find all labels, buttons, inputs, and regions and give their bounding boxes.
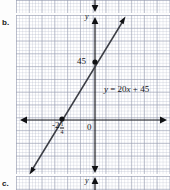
line-lower-left-arrow-icon	[30, 167, 36, 175]
function-line	[32, 21, 123, 170]
down-arrow-icon	[92, 5, 99, 12]
equation-intercept: 45	[140, 84, 149, 94]
y-axis-label-next: y	[85, 177, 89, 185]
x-intercept-whole: 2	[55, 121, 60, 130]
fraction-denominator: 4	[60, 129, 64, 135]
fraction-numerator: 1	[60, 121, 64, 127]
x-intercept-fraction: 1 4	[60, 121, 64, 135]
next-graph-fragment	[16, 176, 170, 190]
origin-label: 0	[87, 123, 92, 132]
y-axis-up-arrow-icon	[92, 17, 99, 24]
previous-graph-fragment	[16, 0, 170, 13]
item-letter-c: c.	[2, 179, 9, 188]
equation-relation: =	[108, 84, 118, 94]
graph-overlay	[16, 15, 170, 174]
y-axis-down-arrow-icon	[92, 166, 99, 173]
y-axis-label: y	[85, 13, 89, 21]
worksheet-page: b. c. y y 45 0 y = 20x + 45 -2 1 4	[0, 0, 170, 190]
previous-graph-axis-overlay	[16, 0, 170, 13]
graph-panel-b	[16, 15, 170, 174]
up-arrow-icon	[92, 177, 99, 184]
x-axis-left-arrow-icon	[20, 117, 27, 124]
y-intercept-label: 45	[77, 57, 86, 66]
x-intercept-label: -2 1 4	[52, 121, 64, 135]
equation-operator: +	[131, 84, 141, 94]
y-intercept-point	[92, 59, 97, 64]
x-axis-right-arrow-icon	[160, 117, 167, 124]
line-upper-right-arrow-icon	[119, 17, 125, 25]
equation-label: y = 20x + 45	[104, 85, 149, 94]
next-graph-axis-overlay	[16, 176, 170, 190]
item-letter-b: b.	[2, 18, 9, 27]
equation-slope: 20	[118, 84, 127, 94]
